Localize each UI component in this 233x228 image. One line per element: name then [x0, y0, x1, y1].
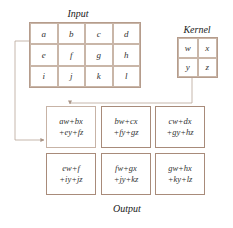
output-term: +ey+fz	[59, 127, 84, 138]
input-cell: g	[85, 44, 113, 65]
input-cell: l	[113, 66, 141, 87]
output-term: aw+bx	[59, 116, 83, 127]
input-cell: h	[113, 44, 141, 65]
output-term: fw+gx	[115, 163, 137, 174]
output-term: +gy+hz	[166, 127, 193, 138]
kernel-cell: y	[178, 58, 198, 78]
output-term: +jy+kz	[114, 174, 139, 185]
input-cell: e	[30, 44, 58, 65]
output-cell: aw+bx +ey+fz	[46, 106, 96, 148]
output-label: Output	[97, 203, 157, 214]
kernel-cell: z	[198, 58, 218, 78]
output-cell: fw+gx +jy+kz	[101, 153, 151, 195]
output-cell: bw+cx +fy+gz	[101, 106, 151, 148]
input-label: Input	[48, 8, 108, 19]
input-cell: f	[58, 44, 86, 65]
kernel-grid: w x y z	[177, 37, 218, 78]
kernel-cell: x	[198, 38, 218, 58]
output-term: +iy+jz	[59, 174, 82, 185]
input-cell: a	[30, 23, 58, 44]
output-cell: cw+dx +gy+hz	[155, 106, 205, 148]
kernel-cell: w	[178, 38, 198, 58]
input-grid: a b c d e f g h i j k l	[29, 22, 141, 88]
output-term: cw+dx	[168, 116, 191, 127]
input-cell: j	[58, 66, 86, 87]
input-cell: k	[85, 66, 113, 87]
input-cell: d	[113, 23, 141, 44]
output-term: ew+f	[62, 163, 80, 174]
output-term: +fy+gz	[113, 127, 138, 138]
output-cell: gw+hx +ky+lz	[155, 153, 205, 195]
input-cell: c	[85, 23, 113, 44]
kernel-label: Kernel	[172, 24, 222, 35]
input-cell: b	[58, 23, 86, 44]
output-term: gw+hx	[168, 163, 192, 174]
output-cell: ew+f +iy+jz	[46, 153, 96, 195]
output-term: +ky+lz	[168, 174, 193, 185]
output-term: bw+cx	[114, 116, 137, 127]
input-cell: i	[30, 66, 58, 87]
